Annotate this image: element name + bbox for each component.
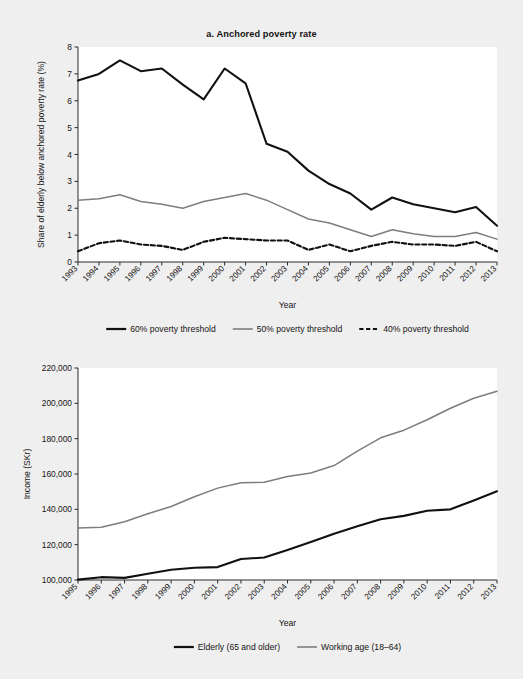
x-axis-tick-label: 2003 <box>246 582 266 602</box>
x-axis-tick-label: 2006 <box>333 264 353 284</box>
x-axis-tick-label: 2008 <box>363 582 383 602</box>
x-axis-tick-label: 2009 <box>386 582 406 602</box>
plot-area-background <box>78 47 497 262</box>
plot-area-background <box>78 368 497 580</box>
x-axis-tick-label: 2013 <box>479 582 499 602</box>
x-axis-tick-label: 2002 <box>249 264 269 284</box>
x-axis-tick-label: 1999 <box>186 264 206 284</box>
x-axis-tick-label: 2011 <box>438 264 457 283</box>
x-axis-tick-label: 2002 <box>223 582 243 602</box>
y-axis-tick-label: 1 <box>67 230 72 240</box>
x-axis-tick-label: 2012 <box>458 264 478 284</box>
y-axis-title: Income (SKr) <box>22 449 32 500</box>
x-axis-title: Year <box>279 618 297 628</box>
figure-page: a. Anchored poverty rate 012345678199319… <box>0 0 523 679</box>
chart-a-canvas: 0123456781993199419951996199719981999200… <box>0 0 523 345</box>
x-axis-tick-label: 2010 <box>416 264 436 284</box>
y-axis-tick-label: 6 <box>67 96 72 106</box>
x-axis-title: Year <box>279 300 297 310</box>
x-axis-tick-label: 1999 <box>153 582 173 602</box>
legend-label: Elderly (65 and older) <box>198 642 280 652</box>
x-axis-tick-label: 1994 <box>81 264 101 284</box>
y-axis-tick-label: 2 <box>67 203 72 213</box>
x-axis-tick-label: 2012 <box>456 582 476 602</box>
y-axis-tick-label: 200,000 <box>42 398 73 408</box>
panel-median-disposable-income: b. Median disposable income 100,000120,0… <box>0 345 523 679</box>
x-axis-tick-label: 1996 <box>123 264 143 284</box>
x-axis-tick-label: 1998 <box>130 582 150 602</box>
x-axis-tick-label: 2008 <box>374 264 394 284</box>
legend-label: Working age (18–64) <box>321 642 401 652</box>
x-axis-tick-label: 2005 <box>293 582 313 602</box>
y-axis-tick-label: 100,000 <box>42 575 73 585</box>
x-axis-tick-label: 2007 <box>340 582 360 602</box>
panel-anchored-poverty-rate: a. Anchored poverty rate 012345678199319… <box>0 0 523 345</box>
x-axis-tick-label: 1997 <box>107 582 127 602</box>
x-axis-tick-label: 2001 <box>200 582 220 602</box>
y-axis-title: Share of elderly below anchored poverty … <box>36 61 46 248</box>
x-axis-tick-label: 2006 <box>316 582 336 602</box>
x-axis-tick-label: 2003 <box>270 264 290 284</box>
y-axis-tick-label: 180,000 <box>42 434 73 444</box>
legend-label: 40% poverty threshold <box>383 324 469 334</box>
x-axis-tick-label: 2004 <box>270 582 290 602</box>
x-axis-tick-label: 2000 <box>207 264 227 284</box>
x-axis-tick-label: 2005 <box>312 264 332 284</box>
y-axis-tick-label: 160,000 <box>42 469 73 479</box>
x-axis-tick-label: 2013 <box>479 264 499 284</box>
y-axis-tick-label: 140,000 <box>42 504 73 514</box>
y-axis-tick-label: 7 <box>67 69 72 79</box>
x-axis-tick-label: 1993 <box>60 264 80 284</box>
x-axis-tick-label: 2010 <box>409 582 429 602</box>
x-axis-tick-label: 2004 <box>291 264 311 284</box>
x-axis-tick-label: 1998 <box>165 264 185 284</box>
x-axis-tick-label: 1996 <box>83 582 103 602</box>
x-axis-tick-label: 2007 <box>353 264 373 284</box>
x-axis-tick-label: 1997 <box>144 264 164 284</box>
y-axis-tick-label: 120,000 <box>42 540 73 550</box>
y-axis-tick-label: 5 <box>67 123 72 133</box>
x-axis-tick-label: 2011 <box>433 582 452 601</box>
x-axis-tick-label: 1995 <box>102 264 122 284</box>
x-axis-tick-label: 2009 <box>395 264 415 284</box>
y-axis-tick-label: 3 <box>67 176 72 186</box>
legend-label: 50% poverty threshold <box>257 324 343 334</box>
chart-b-canvas: 100,000120,000140,000160,000180,000200,0… <box>0 345 523 679</box>
x-axis-tick-label: 2001 <box>228 264 248 284</box>
y-axis-tick-label: 4 <box>67 150 72 160</box>
legend-label: 60% poverty threshold <box>130 324 216 334</box>
y-axis-tick-label: 8 <box>67 42 72 52</box>
y-axis-tick-label: 220,000 <box>42 363 73 373</box>
x-axis-tick-label: 2000 <box>177 582 197 602</box>
